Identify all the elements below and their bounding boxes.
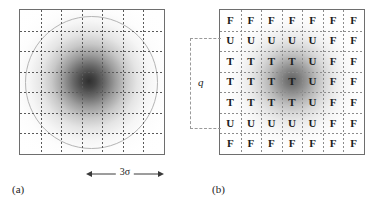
gridline-horizontal [20, 51, 164, 52]
q-label: q [198, 77, 204, 88]
letter-cell-f-r7-c4: F [282, 133, 303, 154]
letter-cell-u-r6-c4: U [282, 113, 303, 134]
letter-cell-u-r2-c4: U [282, 31, 303, 52]
gridline-vertical [61, 10, 62, 154]
letter-cell-u-r6-c3: U [261, 113, 282, 134]
letter-cell-u-r6-c1: U [220, 113, 241, 134]
letter-cell-t-r4-c4: T [282, 72, 303, 93]
letter-cell-f-r1-c1: F [220, 10, 241, 31]
caption-a: (a) [12, 184, 24, 195]
gridline-horizontal [20, 31, 164, 32]
letter-cell-f-r7-c5: F [302, 133, 323, 154]
letter-cell-f-r1-c2: F [241, 10, 262, 31]
gridline-horizontal [20, 72, 164, 73]
letter-cell-t-r5-c2: T [241, 92, 262, 113]
letter-cell-f-r5-c7: F [343, 92, 364, 113]
figure-root: 3σ (a) FFFFFFFUUUUUFFTTTTUFFTTTTUFFTTTTU… [0, 0, 380, 209]
letter-cell-t-r4-c1: T [220, 72, 241, 93]
gridline-vertical [41, 10, 42, 154]
gridline-vertical [123, 10, 124, 154]
letter-cell-f-r5-c6: F [323, 92, 344, 113]
letter-cell-f-r1-c6: F [323, 10, 344, 31]
panel-a [19, 9, 165, 155]
letter-cell-u-r4-c5: U [302, 72, 323, 93]
gridline-horizontal [20, 113, 164, 114]
letter-cell-u-r6-c5: U [302, 113, 323, 134]
letter-cell-f-r7-c2: F [241, 133, 262, 154]
letter-cell-f-r3-c7: F [343, 51, 364, 72]
letter-cell-f-r2-c7: F [343, 31, 364, 52]
gridline-horizontal [20, 133, 164, 134]
three-sigma-label: 3σ [116, 165, 134, 179]
letter-cell-f-r1-c4: F [282, 10, 303, 31]
gridline-vertical [102, 10, 103, 154]
gridline-vertical [82, 10, 83, 154]
letter-cell-t-r5-c4: T [282, 92, 303, 113]
letter-cell-f-r4-c7: F [343, 72, 364, 93]
letter-cell-f-r7-c3: F [261, 133, 282, 154]
letter-cell-u-r5-c5: U [302, 92, 323, 113]
letter-cell-u-r3-c5: U [302, 51, 323, 72]
letter-cell-t-r5-c1: T [220, 92, 241, 113]
letter-cell-f-r1-c3: F [261, 10, 282, 31]
letter-cell-u-r2-c3: U [261, 31, 282, 52]
letter-cell-t-r4-c3: T [261, 72, 282, 93]
letter-cell-t-r5-c3: T [261, 92, 282, 113]
letter-cell-u-r2-c5: U [302, 31, 323, 52]
letter-cell-f-r6-c7: F [343, 113, 364, 134]
letter-cell-t-r4-c2: T [241, 72, 262, 93]
q-extent-bracket [190, 38, 221, 129]
three-sigma-circle-outline [25, 16, 158, 149]
letter-cell-t-r3-c2: T [241, 51, 262, 72]
caption-b: (b) [212, 184, 225, 195]
letter-grid: FFFFFFFUUUUUFFTTTTUFFTTTTUFFTTTTUFFUUUUU… [220, 10, 364, 154]
gridline-horizontal [20, 92, 164, 93]
letter-cell-f-r7-c6: F [323, 133, 344, 154]
gaussian-blob-a [19, 9, 165, 155]
letter-cell-f-r7-c1: F [220, 133, 241, 154]
letter-cell-f-r1-c5: F [302, 10, 323, 31]
letter-cell-f-r7-c7: F [343, 133, 364, 154]
letter-cell-u-r6-c2: U [241, 113, 262, 134]
gridline-vertical [143, 10, 144, 154]
letter-cell-t-r3-c1: T [220, 51, 241, 72]
letter-cell-f-r1-c7: F [343, 10, 364, 31]
dashed-grid-a [20, 10, 164, 154]
letter-cell-t-r3-c3: T [261, 51, 282, 72]
panel-b: FFFFFFFUUUUUFFTTTTUFFTTTTUFFTTTTUFFUUUUU… [219, 9, 365, 155]
letter-cell-f-r3-c6: F [323, 51, 344, 72]
letter-cell-f-r6-c6: F [323, 113, 344, 134]
letter-cell-u-r2-c1: U [220, 31, 241, 52]
letter-cell-f-r2-c6: F [323, 31, 344, 52]
letter-cell-t-r3-c4: T [282, 51, 303, 72]
letter-cell-f-r4-c6: F [323, 72, 344, 93]
letter-cell-u-r2-c2: U [241, 31, 262, 52]
three-sigma-scale-arrow: 3σ [86, 167, 164, 181]
